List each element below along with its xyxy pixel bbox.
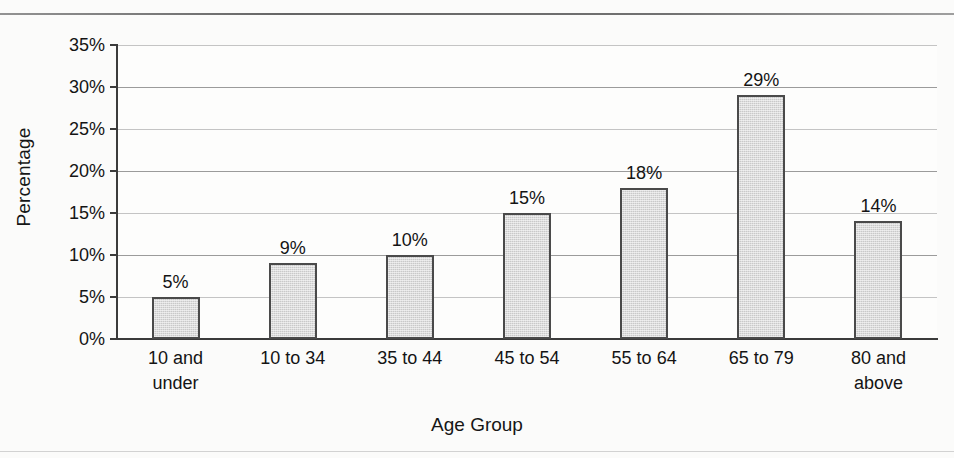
y-axis-tick-label: 10%	[69, 245, 105, 266]
bar[interactable]	[386, 255, 434, 339]
bar-slot: 5%	[117, 45, 234, 339]
x-axis-category-label-line: above	[820, 371, 937, 396]
bar-slot: 14%	[820, 45, 937, 339]
bar-value-label: 29%	[743, 70, 779, 91]
bar-slot: 10%	[351, 45, 468, 339]
bar[interactable]	[620, 188, 668, 339]
x-axis-category-label: 65 to 79	[703, 346, 820, 371]
bar-value-label: 10%	[392, 230, 428, 251]
bar[interactable]	[269, 263, 317, 339]
page-rule-top	[0, 13, 954, 15]
x-axis-category-label: 35 to 44	[351, 346, 468, 371]
y-axis-tick-label: 15%	[69, 203, 105, 224]
y-axis-tick	[110, 296, 117, 298]
y-axis-tick	[110, 338, 117, 340]
bar-chart-figure: Percentage 0%5%10%15%20%25%30%35% 5%9%10…	[0, 16, 954, 452]
bar-value-label: 15%	[509, 188, 545, 209]
y-axis-tick-label: 0%	[79, 329, 105, 350]
bar-slot: 9%	[234, 45, 351, 339]
y-axis-tick	[110, 254, 117, 256]
x-axis-category-label: 45 to 54	[468, 346, 585, 371]
x-axis-category-label: 55 to 64	[586, 346, 703, 371]
x-axis-category-label-line: 55 to 64	[586, 346, 703, 371]
x-axis-title: Age Group	[0, 414, 954, 436]
x-axis-category-label-line: 80 and	[820, 346, 937, 371]
x-axis-category-label-line: 45 to 54	[468, 346, 585, 371]
x-axis-category-label-line: 10 to 34	[234, 346, 351, 371]
y-axis-tick-label: 25%	[69, 119, 105, 140]
x-axis-category-label-line: 10 and	[117, 346, 234, 371]
bar-value-label: 5%	[163, 272, 189, 293]
bar[interactable]	[854, 221, 902, 339]
bar[interactable]	[737, 95, 785, 339]
x-axis-category-label: 10 andunder	[117, 346, 234, 396]
bar-slot: 15%	[468, 45, 585, 339]
x-axis-category-label-line: under	[117, 371, 234, 396]
y-axis-tick	[110, 170, 117, 172]
bar[interactable]	[503, 213, 551, 339]
y-axis-tick-label: 20%	[69, 161, 105, 182]
x-axis-category-label-line: 65 to 79	[703, 346, 820, 371]
bar[interactable]	[152, 297, 200, 339]
y-axis-tick	[110, 44, 117, 46]
bar-slot: 18%	[586, 45, 703, 339]
x-axis-category-label: 80 andabove	[820, 346, 937, 396]
y-axis-tick	[110, 128, 117, 130]
bar-value-label: 18%	[626, 163, 662, 184]
x-axis-category-label-line: 35 to 44	[351, 346, 468, 371]
y-axis-tick	[110, 212, 117, 214]
bar-value-label: 9%	[280, 238, 306, 259]
bar-slot: 29%	[703, 45, 820, 339]
y-axis-tick-label: 30%	[69, 77, 105, 98]
plot-area: 0%5%10%15%20%25%30%35% 5%9%10%15%18%29%1…	[117, 45, 937, 339]
x-axis-category-label: 10 to 34	[234, 346, 351, 371]
y-axis-tick-label: 5%	[79, 287, 105, 308]
bar-value-label: 14%	[860, 196, 896, 217]
y-axis-title: Percentage	[13, 77, 35, 277]
y-axis-tick-label: 35%	[69, 35, 105, 56]
y-axis-tick	[110, 86, 117, 88]
